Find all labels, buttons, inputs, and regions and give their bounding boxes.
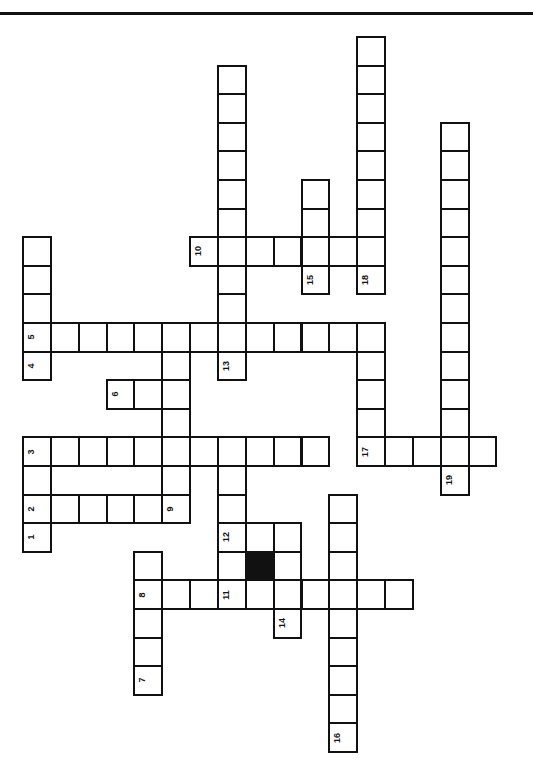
crossword-cell[interactable] bbox=[217, 208, 247, 239]
crossword-cell[interactable] bbox=[384, 579, 414, 610]
crossword-cell[interactable] bbox=[22, 293, 52, 324]
crossword-cell[interactable] bbox=[217, 179, 247, 210]
crossword-cell[interactable] bbox=[78, 322, 108, 353]
crossword-cell[interactable] bbox=[356, 379, 386, 410]
crossword-cell[interactable]: 10 bbox=[189, 236, 219, 267]
crossword-cell[interactable]: 17 bbox=[356, 436, 386, 467]
crossword-cell[interactable] bbox=[356, 65, 386, 96]
crossword-cell[interactable] bbox=[356, 179, 386, 210]
crossword-cell[interactable] bbox=[245, 322, 275, 353]
crossword-cell[interactable] bbox=[356, 579, 386, 610]
crossword-cell[interactable] bbox=[50, 322, 80, 353]
crossword-cell[interactable] bbox=[328, 637, 358, 668]
crossword-cell[interactable]: 8 bbox=[133, 579, 163, 610]
crossword-cell[interactable] bbox=[133, 379, 163, 410]
crossword-cell[interactable] bbox=[440, 208, 470, 239]
crossword-cell[interactable]: 15 bbox=[301, 265, 331, 296]
crossword-cell[interactable] bbox=[161, 379, 191, 410]
crossword-cell[interactable] bbox=[301, 179, 331, 210]
crossword-cell[interactable] bbox=[356, 122, 386, 153]
crossword-cell[interactable]: 12 bbox=[217, 522, 247, 553]
crossword-cell[interactable] bbox=[50, 494, 80, 525]
crossword-cell[interactable] bbox=[328, 322, 358, 353]
crossword-cell[interactable] bbox=[106, 494, 136, 525]
crossword-cell[interactable] bbox=[217, 436, 247, 467]
crossword-cell[interactable] bbox=[356, 236, 386, 267]
crossword-cell[interactable]: 1 bbox=[22, 522, 52, 553]
crossword-cell[interactable] bbox=[412, 436, 442, 467]
crossword-cell[interactable] bbox=[440, 351, 470, 382]
crossword-cell[interactable] bbox=[440, 379, 470, 410]
crossword-cell[interactable] bbox=[217, 265, 247, 296]
crossword-cell[interactable] bbox=[106, 322, 136, 353]
crossword-cell[interactable] bbox=[161, 322, 191, 353]
crossword-cell[interactable] bbox=[356, 93, 386, 124]
crossword-cell[interactable]: 11 bbox=[217, 579, 247, 610]
crossword-cell[interactable] bbox=[217, 293, 247, 324]
crossword-cell[interactable] bbox=[301, 236, 331, 267]
crossword-cell[interactable] bbox=[440, 236, 470, 267]
crossword-cell[interactable] bbox=[440, 293, 470, 324]
crossword-cell[interactable] bbox=[217, 236, 247, 267]
crossword-cell[interactable] bbox=[328, 494, 358, 525]
crossword-cell[interactable] bbox=[273, 551, 303, 582]
crossword-cell[interactable] bbox=[273, 579, 303, 610]
crossword-cell[interactable] bbox=[301, 579, 331, 610]
crossword-cell[interactable] bbox=[161, 436, 191, 467]
crossword-cell[interactable]: 19 bbox=[440, 465, 470, 496]
crossword-cell[interactable] bbox=[217, 93, 247, 124]
crossword-cell[interactable] bbox=[328, 551, 358, 582]
crossword-cell[interactable] bbox=[189, 322, 219, 353]
crossword-cell[interactable] bbox=[133, 551, 163, 582]
crossword-cell[interactable] bbox=[22, 465, 52, 496]
crossword-cell[interactable] bbox=[356, 36, 386, 67]
crossword-cell[interactable] bbox=[440, 436, 470, 467]
crossword-cell[interactable] bbox=[245, 579, 275, 610]
crossword-cell[interactable] bbox=[440, 150, 470, 181]
crossword-cell[interactable]: 5 bbox=[22, 322, 52, 353]
crossword-cell[interactable]: 3 bbox=[22, 436, 52, 467]
crossword-cell[interactable] bbox=[217, 322, 247, 353]
crossword-cell[interactable] bbox=[78, 494, 108, 525]
crossword-cell[interactable] bbox=[273, 436, 303, 467]
crossword-cell[interactable] bbox=[440, 265, 470, 296]
crossword-cell[interactable] bbox=[106, 436, 136, 467]
crossword-cell[interactable] bbox=[384, 436, 414, 467]
crossword-cell[interactable] bbox=[189, 579, 219, 610]
crossword-cell[interactable] bbox=[245, 522, 275, 553]
crossword-cell[interactable] bbox=[133, 436, 163, 467]
crossword-cell[interactable] bbox=[356, 351, 386, 382]
crossword-cell[interactable] bbox=[328, 522, 358, 553]
crossword-cell[interactable]: 16 bbox=[328, 722, 358, 753]
crossword-cell[interactable] bbox=[356, 322, 386, 353]
crossword-cell[interactable] bbox=[440, 179, 470, 210]
crossword-cell[interactable] bbox=[245, 436, 275, 467]
crossword-cell[interactable] bbox=[161, 465, 191, 496]
crossword-cell[interactable] bbox=[161, 579, 191, 610]
crossword-cell[interactable] bbox=[328, 694, 358, 725]
crossword-cell[interactable] bbox=[468, 436, 498, 467]
crossword-cell[interactable] bbox=[133, 494, 163, 525]
crossword-cell[interactable]: 6 bbox=[106, 379, 136, 410]
crossword-cell[interactable] bbox=[328, 236, 358, 267]
crossword-cell[interactable] bbox=[273, 322, 303, 353]
crossword-cell[interactable] bbox=[356, 150, 386, 181]
crossword-cell[interactable] bbox=[133, 322, 163, 353]
crossword-cell[interactable] bbox=[356, 208, 386, 239]
crossword-cell[interactable] bbox=[217, 150, 247, 181]
crossword-cell[interactable] bbox=[356, 408, 386, 439]
crossword-cell[interactable] bbox=[328, 608, 358, 639]
crossword-cell[interactable] bbox=[161, 351, 191, 382]
crossword-cell[interactable] bbox=[161, 408, 191, 439]
crossword-cell[interactable] bbox=[78, 436, 108, 467]
crossword-cell[interactable] bbox=[189, 436, 219, 467]
crossword-cell[interactable] bbox=[301, 208, 331, 239]
crossword-cell[interactable] bbox=[22, 236, 52, 267]
crossword-cell[interactable] bbox=[217, 465, 247, 496]
crossword-cell[interactable] bbox=[328, 579, 358, 610]
crossword-cell[interactable]: 14 bbox=[273, 608, 303, 639]
crossword-cell[interactable] bbox=[245, 236, 275, 267]
crossword-cell[interactable] bbox=[217, 494, 247, 525]
crossword-cell[interactable] bbox=[217, 122, 247, 153]
crossword-cell[interactable] bbox=[440, 122, 470, 153]
